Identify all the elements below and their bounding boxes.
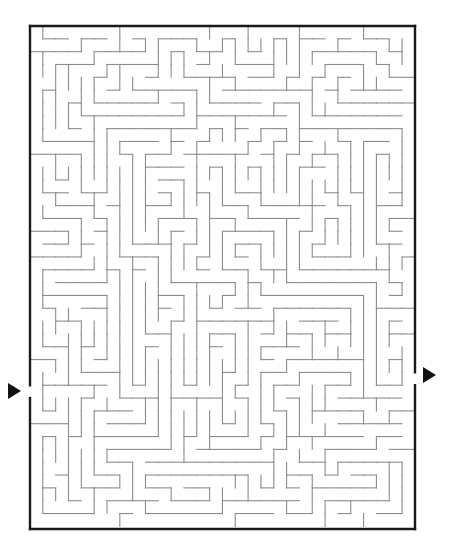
maze-page <box>0 0 454 553</box>
maze-canvas <box>0 0 454 553</box>
